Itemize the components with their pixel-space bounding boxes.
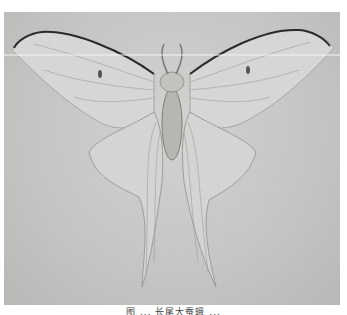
moth-illustration: [4, 12, 340, 305]
left-antenna: [162, 44, 168, 74]
right-hindwing: [182, 112, 256, 287]
left-forewing: [12, 32, 154, 128]
left-hindwing: [89, 112, 163, 287]
right-forewing: [190, 30, 334, 128]
figure-caption: 图 ... 长尾大蚕蛾 ...: [0, 307, 347, 315]
moth-thorax: [160, 72, 184, 92]
moth-photo: [4, 12, 340, 305]
moth-body: [162, 88, 182, 160]
right-eyespot: [246, 66, 250, 74]
left-eyespot: [98, 70, 102, 78]
right-antenna: [176, 44, 182, 74]
